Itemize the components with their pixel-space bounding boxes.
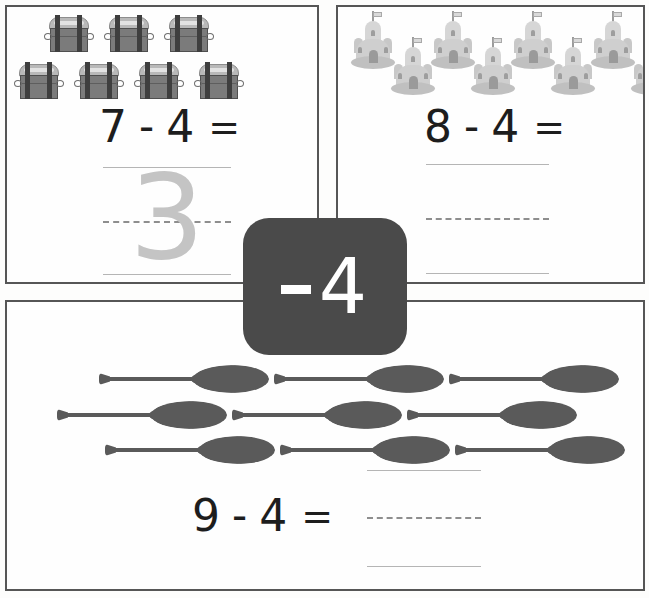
answer-handwriting-lines-1[interactable]: 3 bbox=[103, 167, 231, 275]
guide-line-middle bbox=[426, 218, 549, 220]
paddle-icon bbox=[407, 400, 577, 430]
subtrahend-value: 4 bbox=[491, 105, 519, 149]
minus-operator: - bbox=[139, 106, 154, 148]
minuend-value: 8 bbox=[424, 105, 452, 149]
treasure-chest-icon bbox=[135, 60, 183, 102]
equation-panel-3: 9 - 4 = bbox=[192, 494, 333, 538]
subtrahend-value: 4 bbox=[166, 105, 194, 149]
paddle-icon-row-3 bbox=[105, 435, 625, 465]
guide-line-bottom bbox=[426, 273, 549, 274]
paddle-icon bbox=[99, 364, 269, 394]
paddle-icon bbox=[449, 364, 619, 394]
answer-handwriting-lines-2[interactable] bbox=[426, 164, 549, 274]
treasure-chest-icon bbox=[45, 13, 93, 55]
treasure-chest-icon bbox=[165, 13, 213, 55]
equals-sign: = bbox=[301, 497, 333, 535]
treasure-chest-icon bbox=[15, 60, 63, 102]
paddle-icon bbox=[57, 400, 227, 430]
guide-line-top bbox=[426, 164, 549, 165]
guide-line-middle bbox=[367, 517, 481, 519]
subtrahend-value: 4 bbox=[259, 494, 287, 538]
guide-line-top bbox=[367, 470, 481, 471]
chest-icon-row-top bbox=[45, 13, 213, 55]
sandcastle-icon bbox=[630, 37, 645, 95]
minus-operator: - bbox=[232, 495, 247, 537]
paddle-icon bbox=[274, 364, 444, 394]
paddle-icon bbox=[105, 435, 275, 465]
paddle-icon-row-2 bbox=[57, 400, 577, 430]
castle-icon-row bbox=[350, 11, 645, 95]
answer-handwriting-lines-3[interactable] bbox=[367, 470, 481, 566]
traced-answer-digit: 3 bbox=[103, 158, 231, 276]
treasure-chest-icon bbox=[75, 60, 123, 102]
equation-panel-1: 7 - 4 = bbox=[99, 105, 240, 149]
equals-sign: = bbox=[208, 108, 240, 146]
equation-panel-2: 8 - 4 = bbox=[424, 105, 565, 149]
operation-badge: 4 bbox=[243, 218, 407, 355]
treasure-chest-icon bbox=[195, 60, 243, 102]
paddle-icon-row-1 bbox=[99, 364, 619, 394]
paddle-icon bbox=[455, 435, 625, 465]
guide-line-bottom bbox=[367, 566, 481, 567]
paddle-icon bbox=[280, 435, 450, 465]
paddle-icon bbox=[232, 400, 402, 430]
treasure-chest-icon bbox=[105, 13, 153, 55]
badge-minus-icon bbox=[281, 285, 311, 294]
equals-sign: = bbox=[533, 108, 565, 146]
chest-icon-row-bottom bbox=[15, 60, 243, 102]
minuend-value: 7 bbox=[99, 105, 127, 149]
minuend-value: 9 bbox=[192, 494, 220, 538]
minus-operator: - bbox=[464, 106, 479, 148]
badge-value: 4 bbox=[319, 249, 369, 325]
worksheet-page: 7 - 4 = 3 bbox=[0, 0, 649, 598]
